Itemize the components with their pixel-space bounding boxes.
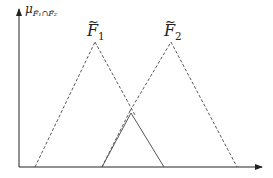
f2-left-leg-upper [130,42,171,111]
diagram-svg [0,0,273,178]
mu-subscript-f2: F̃₂ [48,9,57,18]
f1-tilde: ~ [88,16,99,29]
mu-subscript-f1: F̃₁ [33,9,42,18]
f1-subscript: 1 [98,30,105,42]
f1-left-leg [35,42,95,167]
f2-tilde: ~ [165,16,176,29]
fuzzy-intersection-diagram: μF̃₁∩F̃₂ ~F1 ~F2 [0,0,273,178]
y-axis-label: μF̃₁∩F̃₂ [25,3,57,18]
f1-label: ~F1 [87,23,105,41]
mu-symbol: μ [25,2,33,16]
f2-label: ~F2 [164,23,182,41]
f2-subscript: 2 [175,30,182,42]
intersection-curve [102,113,164,167]
f2-right-leg [171,42,237,167]
f1-right-leg-upper [95,42,135,115]
